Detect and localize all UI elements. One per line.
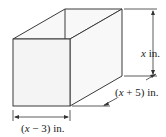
box-front-face: [13, 39, 70, 106]
width-dimension: [13, 110, 70, 121]
width-label: (x − 3) in.: [21, 122, 65, 135]
depth-label: (x + 5) in.: [115, 86, 159, 99]
height-label: x in.: [140, 47, 160, 59]
box-diagram: x in. (x + 5) in. (x − 3) in.: [0, 0, 166, 137]
height-dimension: [124, 9, 157, 76]
